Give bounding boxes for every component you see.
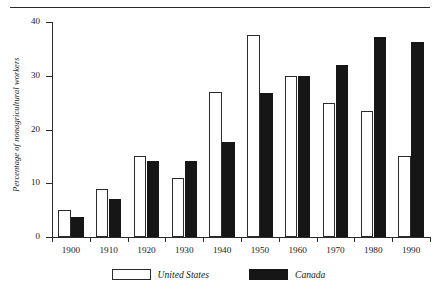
bar-canada-1960 [298, 76, 311, 237]
legend-entry-canada: Canada [249, 269, 325, 280]
x-axis-tick [392, 238, 393, 242]
y-axis-tick-label: 40 [14, 17, 40, 26]
y-axis-tick-label-text: 40 [14, 17, 40, 26]
bar-united-states-1930 [172, 178, 185, 237]
bar-canada-1980 [374, 37, 387, 237]
x-axis-tick [354, 238, 355, 242]
bar-united-states-1920 [134, 156, 147, 237]
filled-square-swatch [249, 269, 288, 280]
x-axis-tick [52, 238, 53, 242]
x-axis-tick [128, 238, 129, 242]
y-axis-tick-label: 30 [14, 71, 40, 80]
bar-canada-1950 [260, 93, 273, 237]
bar-canada-1940 [222, 142, 235, 237]
x-axis-tick-label-1990: 1990 [389, 245, 433, 256]
y-axis-tick-label: 20 [14, 125, 40, 134]
y-axis-tick-label: 10 [14, 178, 40, 187]
x-axis-tick [203, 238, 204, 242]
x-axis-tick [241, 238, 242, 242]
bar-canada-1990 [411, 42, 424, 237]
bar-united-states-1940 [209, 92, 222, 237]
bar-united-states-1960 [285, 76, 298, 237]
chart-legend: United States Canada [0, 264, 437, 284]
x-axis-tick [279, 238, 280, 242]
y-axis-tick-label-text: 10 [14, 178, 40, 187]
plot-area [52, 22, 430, 237]
open-square-swatch [112, 269, 151, 280]
x-axis-tick [165, 238, 166, 242]
legend-label-canada: Canada [295, 269, 325, 280]
legend-label-united-states: United States [158, 269, 209, 280]
bar-united-states-1980 [361, 111, 374, 237]
y-axis-tick-label-text: 0 [14, 232, 40, 241]
x-axis-tick [317, 238, 318, 242]
x-axis-tick [90, 238, 91, 242]
y-axis-tick-label: 0 [14, 232, 40, 241]
bar-chart-figure: Percentage of nonagricultural workers 01… [0, 0, 437, 293]
bar-united-states-1970 [323, 103, 336, 237]
y-axis-tick-label-text: 30 [14, 71, 40, 80]
top-horizontal-rule [10, 7, 430, 8]
bar-canada-1910 [109, 199, 122, 237]
y-axis-tick-label-text: 20 [14, 125, 40, 134]
bar-canada-1920 [147, 161, 160, 237]
bar-canada-1930 [185, 161, 198, 237]
legend-entry-united-states: United States [112, 269, 209, 280]
x-axis-tick [430, 238, 431, 242]
bar-united-states-1910 [96, 189, 109, 237]
bar-united-states-1990 [398, 156, 411, 237]
bar-canada-1900 [71, 217, 84, 237]
bar-united-states-1950 [247, 35, 260, 237]
bar-canada-1970 [336, 65, 349, 237]
bar-united-states-1900 [58, 210, 71, 237]
